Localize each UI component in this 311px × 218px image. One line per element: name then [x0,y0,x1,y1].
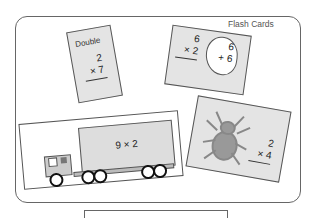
card-bottom-number: × 7 [81,64,105,79]
bubble-bottom-number: + 6 [208,50,233,64]
page-title: Flash Cards [228,19,274,29]
card-label: Double [75,36,102,49]
flash-card-six-times-two: 6 × 2 6 + 6 [164,25,252,96]
underline [248,160,270,165]
flash-card-truck: 9 × 2 [18,110,183,190]
underline [175,56,197,60]
spider-icon [198,106,255,169]
underline [86,77,108,82]
card-bottom-number: × 2 [176,43,199,57]
answer-box [84,210,228,218]
thought-bubble: 6 + 6 [203,35,240,77]
